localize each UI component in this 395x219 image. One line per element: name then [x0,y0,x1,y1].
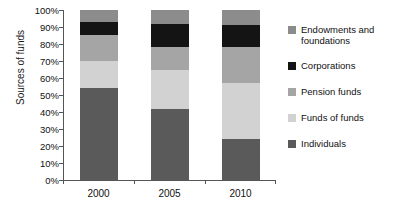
legend-item[interactable]: Corporations [288,60,355,71]
bar-segment [222,25,260,47]
x-axis-line [63,180,276,181]
x-tick [63,180,64,184]
y-tick-label: 40% [21,108,59,118]
x-tick [134,180,135,184]
legend-item[interactable]: Individuals [288,138,346,149]
legend-swatch-icon [288,62,296,70]
bar-segment [222,139,260,180]
y-tick-label: 50% [21,91,59,101]
bar-segment [222,47,260,83]
bar-segment [151,47,189,69]
legend-swatch-icon [288,140,296,148]
legend-item-label: Corporations [301,60,355,71]
bar-segment [151,24,189,48]
y-tick-label: 80% [21,40,59,50]
bar-segment [80,10,118,22]
y-tick-label: 0% [21,176,59,186]
legend-item-label: Endowments and foundations [301,24,393,46]
y-tick-label: 60% [21,74,59,84]
bar-segment [80,61,118,88]
y-tick [59,129,63,130]
x-axis-category-label: 2000 [64,188,134,199]
legend-swatch-icon [288,88,296,96]
plot-area: 0%10%20%30%40%50%60%70%80%90%100% 200020… [63,10,276,180]
y-tick [59,10,63,11]
y-tick [59,61,63,62]
legend-item[interactable]: Pension funds [288,86,361,97]
x-tick [205,180,206,184]
bar-segment [80,35,118,61]
y-tick-label: 30% [21,125,59,135]
bar-column [222,10,260,180]
x-tick [275,180,276,184]
legend-swatch-icon [288,26,296,34]
y-tick [59,44,63,45]
bar-column [151,10,189,180]
legend-item[interactable]: Endowments and foundations [288,24,393,46]
bar-column [80,10,118,180]
y-tick [59,27,63,28]
legend-item-label: Funds of funds [301,112,364,123]
bar-segment [80,88,118,180]
legend-item-label: Individuals [301,138,346,149]
x-axis-category-label: 2010 [206,188,276,199]
y-tick [59,95,63,96]
legend-swatch-icon [288,114,296,122]
y-tick-label: 70% [21,57,59,67]
y-tick [59,78,63,79]
y-tick-label: 10% [21,159,59,169]
legend-item-label: Pension funds [301,86,361,97]
bar-segment [222,83,260,139]
y-tick-label: 20% [21,142,59,152]
y-tick-label: 100% [21,6,59,16]
stacked-bar-chart: Sources of funds 0%10%20%30%40%50%60%70%… [0,0,395,219]
x-axis-category-label: 2005 [135,188,205,199]
bar-segment [151,10,189,24]
bar-segment [151,109,189,180]
y-tick-label: 90% [21,23,59,33]
bar-segment [80,22,118,35]
y-tick [59,112,63,113]
bar-segment [151,70,189,109]
legend-item[interactable]: Funds of funds [288,112,364,123]
bar-segment [222,10,260,25]
y-tick [59,163,63,164]
y-tick [59,146,63,147]
y-axis-line [63,10,64,181]
